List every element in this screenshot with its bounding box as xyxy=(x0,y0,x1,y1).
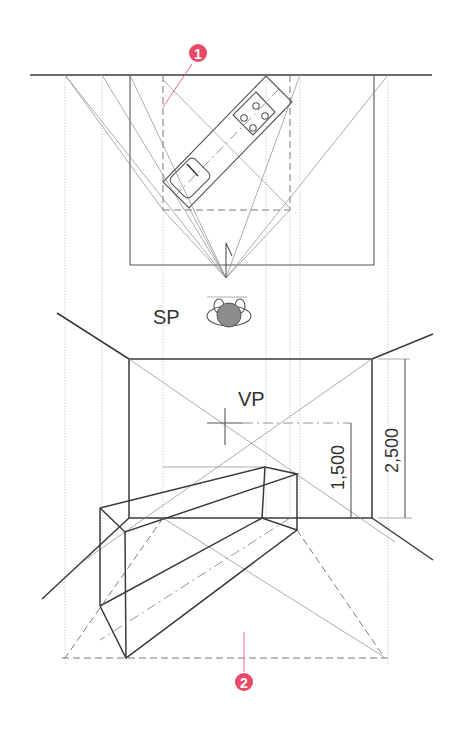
cooktop-icon xyxy=(233,92,275,135)
vp-label: VP xyxy=(238,388,265,410)
sp-label: SP xyxy=(153,306,180,328)
kitchen-counter-perspective xyxy=(65,467,384,658)
ceiling-edge-left xyxy=(57,313,129,359)
eye-height-label: 1,500 xyxy=(328,445,348,490)
station-point-figure xyxy=(207,297,251,327)
marker-2: 2 xyxy=(235,632,253,691)
floor-edge-left xyxy=(42,518,129,599)
vanishing-point xyxy=(207,408,243,445)
floor-edge-right xyxy=(372,518,433,560)
faucet-icon xyxy=(187,164,198,176)
perspective-view: VP 1,500 2,500 xyxy=(42,313,433,658)
svg-text:1: 1 xyxy=(194,46,202,62)
perspective-diagram: SP VP 1,500 xyxy=(0,0,460,751)
vertical-projectors xyxy=(65,75,388,665)
svg-text:2: 2 xyxy=(240,675,248,691)
back-wall xyxy=(129,359,372,518)
ceiling-edge-right xyxy=(372,334,433,359)
plan-view: SP xyxy=(30,75,432,328)
kitchen-counter-plan xyxy=(163,76,292,208)
ceiling-height-label: 2,500 xyxy=(382,428,402,473)
